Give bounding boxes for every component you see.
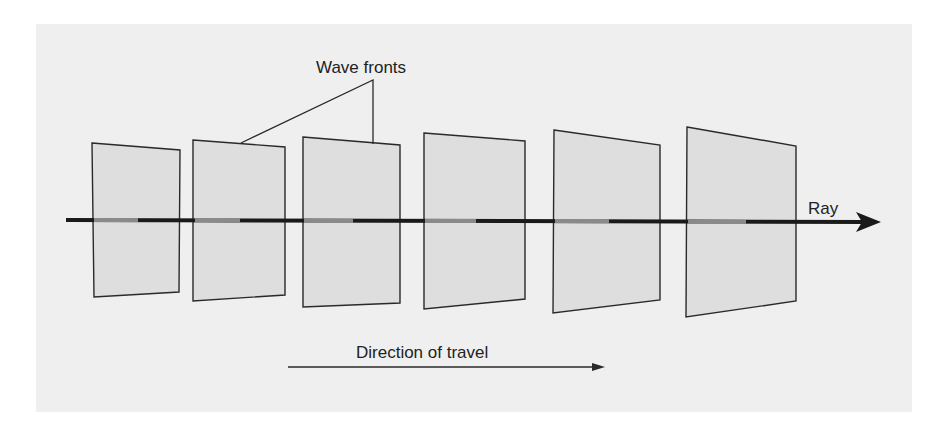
wave-fronts-label: Wave fronts [316, 58, 406, 77]
ray-label: Ray [808, 199, 839, 218]
direction-of-travel-label: Direction of travel [356, 343, 488, 362]
wave-front-diagram: Ray Wave fronts Direction of travel [0, 0, 950, 436]
